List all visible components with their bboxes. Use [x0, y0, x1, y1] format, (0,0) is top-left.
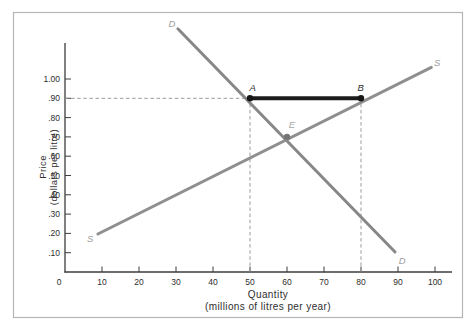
x-tick-label: 0 [57, 277, 62, 287]
x-tick-label: 10 [97, 277, 107, 287]
x-tick-label: 100 [428, 277, 442, 287]
x-tick-label: 80 [356, 277, 366, 287]
y-tick-label: .20 [48, 228, 60, 238]
point-E-label: E [289, 119, 296, 130]
y-tick-label: .90 [48, 93, 60, 103]
x-axis-title: Quantity [248, 289, 288, 300]
demand-label: D [168, 18, 175, 29]
point-B-dot [358, 95, 364, 101]
x-tick-label: 30 [171, 277, 181, 287]
point-B-label: B [357, 82, 364, 93]
point-E-dot [284, 134, 290, 140]
y-axis-title: Price [37, 155, 48, 179]
supply-label: S [434, 57, 441, 68]
demand-label: D [399, 255, 406, 266]
y-tick-label: .80 [48, 113, 60, 123]
x-tick-label: 70 [319, 277, 329, 287]
x-tick-label: 60 [282, 277, 292, 287]
y-tick-label: .30 [48, 209, 60, 219]
x-tick-label: 90 [393, 277, 403, 287]
x-axis-subtitle: (millions of litres per year) [205, 301, 331, 312]
x-tick-label: 50 [245, 277, 255, 287]
supply-demand-chart: 01020304050607080901001.00.90.80.70.60.5… [0, 0, 474, 332]
x-tick-label: 20 [134, 277, 144, 287]
x-tick-label: 40 [208, 277, 218, 287]
y-axis-subtitle: (dollars per litre) [48, 129, 59, 205]
point-A-label: A [248, 82, 255, 93]
y-tick-label: .10 [48, 248, 60, 258]
supply-label: S [87, 233, 94, 244]
point-A-dot [247, 95, 253, 101]
figure: 01020304050607080901001.00.90.80.70.60.5… [0, 0, 474, 332]
y-tick-label: 1.00 [43, 74, 60, 84]
